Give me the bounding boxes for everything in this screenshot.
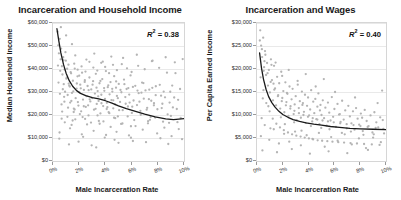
data-point: [295, 95, 297, 97]
data-point: [94, 108, 96, 110]
data-point: [126, 67, 128, 69]
data-point: [106, 108, 108, 110]
data-point: [83, 105, 85, 107]
data-point: [261, 149, 263, 151]
data-point: [98, 120, 100, 122]
data-point: [131, 106, 133, 108]
data-point: [151, 87, 153, 89]
data-point: [280, 116, 282, 118]
data-point: [97, 100, 99, 102]
data-point: [74, 118, 76, 120]
data-point: [77, 101, 79, 103]
x-tick-label-left: 2%: [74, 166, 84, 174]
data-point: [331, 96, 333, 98]
data-point: [100, 102, 102, 104]
data-point: [76, 69, 78, 71]
data-point: [300, 129, 302, 131]
x-tick-mark-left: [78, 162, 79, 165]
data-point: [344, 133, 346, 135]
data-point: [104, 98, 106, 100]
data-point: [82, 98, 84, 100]
plot-area-right: [256, 22, 387, 162]
data-point: [138, 92, 140, 94]
data-point: [339, 122, 341, 124]
data-point: [63, 101, 65, 103]
data-point: [358, 137, 360, 139]
y-tick-label-right: $10,000: [212, 111, 252, 117]
data-point: [284, 123, 286, 125]
data-point: [356, 118, 358, 120]
data-point: [304, 136, 306, 138]
data-point: [136, 104, 138, 106]
data-point: [57, 64, 59, 66]
data-point: [166, 113, 168, 115]
data-point: [311, 120, 313, 122]
data-point: [317, 92, 319, 94]
data-point: [87, 104, 89, 106]
x-tick-mark-left: [52, 162, 53, 165]
y-tick-label-right: $0: [212, 157, 252, 163]
data-point: [90, 121, 92, 123]
data-point: [95, 146, 97, 148]
data-point: [260, 117, 262, 119]
y-tick-label-right: $30,000: [212, 19, 252, 25]
data-point: [383, 132, 385, 134]
data-point: [281, 100, 283, 102]
data-point: [88, 61, 90, 63]
data-point: [58, 52, 60, 54]
data-point: [79, 83, 81, 85]
data-point: [61, 110, 63, 112]
data-point: [178, 128, 180, 130]
data-point: [108, 72, 110, 74]
data-point: [98, 123, 100, 125]
data-point: [304, 94, 306, 96]
data-point: [371, 143, 373, 145]
data-point: [326, 140, 328, 142]
data-point: [92, 130, 94, 132]
data-point: [324, 106, 326, 108]
data-point: [316, 139, 318, 141]
data-point: [150, 100, 152, 102]
x-axis-title-left: Male Incarceration Rate: [40, 185, 194, 194]
data-point: [95, 73, 97, 75]
data-point: [73, 63, 75, 65]
data-point: [285, 101, 287, 103]
y-tick-label-left: $10,000: [8, 134, 48, 140]
data-point: [74, 67, 76, 69]
data-point: [334, 91, 336, 93]
data-point: [264, 50, 266, 52]
data-point: [117, 115, 119, 117]
data-point: [89, 98, 91, 100]
chart-panel-household-income: Incarceration and Household Income Media…: [0, 0, 200, 200]
data-point: [329, 119, 331, 121]
data-point: [362, 130, 364, 132]
data-point: [314, 98, 316, 100]
data-point: [116, 95, 118, 97]
data-point: [109, 126, 111, 128]
data-point: [143, 98, 145, 100]
data-point: [346, 152, 348, 154]
y-tick-mark-left: [49, 91, 52, 92]
data-point: [80, 65, 82, 67]
data-point: [267, 105, 269, 107]
data-point: [62, 88, 64, 90]
data-point: [350, 122, 352, 124]
data-point: [319, 104, 321, 106]
data-point: [99, 112, 101, 114]
data-point: [382, 119, 384, 121]
data-point: [376, 102, 378, 104]
data-point: [112, 99, 114, 101]
data-point: [347, 105, 349, 107]
data-point: [339, 113, 341, 115]
data-point: [352, 110, 354, 112]
y-tick-mark-left: [49, 114, 52, 115]
data-point: [59, 70, 61, 72]
y-tick-mark-left: [49, 160, 52, 161]
data-point: [323, 78, 325, 80]
data-point: [298, 112, 300, 114]
data-point: [162, 121, 164, 123]
data-point: [159, 137, 161, 139]
data-point: [111, 88, 113, 90]
data-point: [95, 86, 97, 88]
data-point: [308, 137, 310, 139]
